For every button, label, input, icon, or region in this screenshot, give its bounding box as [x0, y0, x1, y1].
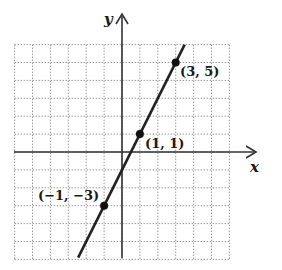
point-label-neg1-neg3: (−1, −3) [38, 188, 99, 203]
coordinate-plane: y x (3, 5) (1, 1) (−1, −3) [0, 0, 282, 270]
data-point [100, 202, 108, 210]
data-point [136, 130, 144, 138]
x-axis-label: x [249, 158, 260, 176]
point-label-3-5: (3, 5) [180, 64, 219, 79]
data-line [78, 45, 185, 258]
y-axis-label: y [103, 10, 114, 28]
data-point [172, 59, 180, 67]
point-label-1-1: (1, 1) [145, 136, 184, 151]
